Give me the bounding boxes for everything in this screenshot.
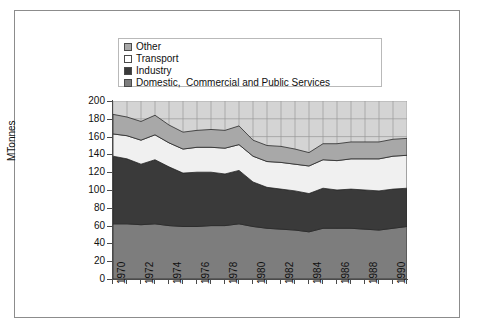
legend-label-transport: Transport [136,54,178,64]
y-axis-tick [107,208,112,209]
x-axis-tick [280,280,281,284]
y-axis-tick [107,137,112,138]
x-axis-tick-label: 1974 [172,262,183,284]
x-axis-tick [392,280,393,284]
x-axis-tick-label: 1980 [256,262,267,284]
y-axis-title: MTonnes [6,120,17,161]
x-axis-tick [112,280,113,284]
y-axis-tick-label: 140 [88,148,105,159]
y-axis-tick [107,279,112,280]
y-axis-tick-label: 20 [94,255,105,266]
x-axis-tick [168,280,169,284]
legend-label-industry: Industry [136,66,172,76]
y-axis-tick [107,154,112,155]
x-axis-tick [252,280,253,284]
legend-swatch-domestic [124,79,132,87]
y-axis-tick-label: 40 [94,237,105,248]
y-axis-tick [107,119,112,120]
x-axis-tick-label: 1970 [116,262,127,284]
x-axis-tick-label: 1984 [312,262,323,284]
x-axis-tick [140,280,141,284]
x-axis-tick-label: 1986 [340,262,351,284]
x-axis-tick [336,280,337,284]
legend-item-domestic: Domestic, Commercial and Public Services [124,77,381,88]
y-axis-labels: 020406080100120140160180200 [63,101,105,279]
legend-swatch-transport [124,55,132,63]
x-axis-tick-label: 1978 [228,262,239,284]
y-axis-tick-label: 0 [99,273,105,284]
x-axis-tick [308,280,309,284]
y-axis-tick [107,172,112,173]
x-axis-tick-label: 1976 [200,262,211,284]
legend-label-domestic: Domestic, Commercial and Public Services [136,78,330,88]
legend-swatch-other [124,43,132,51]
y-axis-tick [107,261,112,262]
y-axis-tick-label: 180 [88,113,105,124]
y-axis-tick [107,101,112,102]
chart-legend: Other Transport Industry Domestic, Comme… [118,38,382,87]
y-axis-tick [107,226,112,227]
y-axis-tick-label: 80 [94,202,105,213]
x-axis-tick [196,280,197,284]
y-axis-tick-label: 100 [88,184,105,195]
x-axis-tick [364,280,365,284]
y-axis-tick-label: 200 [88,95,105,106]
y-axis-tick-label: 160 [88,131,105,142]
stacked-area-svg [113,101,407,279]
y-axis-tick [107,190,112,191]
x-axis-tick [224,280,225,284]
x-axis-tick-label: 1990 [396,262,407,284]
legend-label-other: Other [136,42,161,52]
chart-figure: Other Transport Industry Domestic, Comme… [0,0,477,332]
x-axis-tick-label: 1972 [144,262,155,284]
y-axis-tick-label: 120 [88,166,105,177]
x-axis-tick-label: 1982 [284,262,295,284]
legend-item-other: Other [124,41,381,52]
y-axis-tick [107,243,112,244]
figure-frame: Other Transport Industry Domestic, Comme… [14,10,460,318]
legend-swatch-industry [124,67,132,75]
legend-item-industry: Industry [124,65,381,76]
legend-item-transport: Transport [124,53,381,64]
y-axis-tick-label: 60 [94,220,105,231]
plot-area [113,101,407,279]
x-axis-tick-label: 1988 [368,262,379,284]
